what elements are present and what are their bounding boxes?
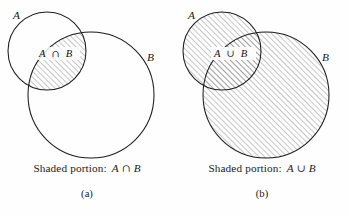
label-set-b: B: [322, 51, 329, 63]
caption-set-b: B: [134, 162, 141, 174]
region-label-suffix: B: [66, 48, 73, 59]
shaded-union-region: [183, 12, 329, 158]
label-set-a: A: [187, 9, 195, 21]
label-set-a: A: [12, 9, 20, 21]
caption-union: Shaded portion:A ∪ B: [175, 162, 349, 174]
caption-expression: A ∩ B: [112, 162, 141, 174]
panel-intersection: A B A ∩ B Shaded portion:A ∩ B (a): [0, 0, 174, 216]
panel-index-b: (b): [175, 188, 349, 199]
caption-set-a: A: [287, 162, 294, 174]
region-label-suffix: B: [241, 48, 248, 59]
region-label-prefix: A: [213, 48, 221, 59]
svg-text:A ∩ B: A ∩ B: [38, 48, 73, 59]
caption-expression: A ∪ B: [287, 162, 316, 174]
venn-figure: A B A ∩ B Shaded portion:A ∩ B (a): [0, 0, 349, 216]
caption-set-a: A: [112, 162, 119, 174]
region-label-operator: ∩: [51, 48, 59, 59]
caption-intersection: Shaded portion:A ∩ B: [0, 162, 174, 174]
region-label-union: A ∪ B: [211, 47, 256, 60]
caption-operator: ∩: [122, 162, 131, 174]
caption-operator: ∪: [297, 162, 306, 174]
panel-index-a: (a): [0, 188, 174, 199]
venn-diagram-intersection: A B A ∩ B: [0, 0, 174, 166]
svg-text:A ∪ B: A ∪ B: [213, 48, 248, 59]
venn-diagram-union: A B A ∪ B: [175, 0, 349, 166]
caption-set-b: B: [309, 162, 316, 174]
panel-union: A B A ∪ B Shaded portion:A ∪ B (b): [175, 0, 349, 216]
caption-prefix: Shaded portion:: [208, 162, 281, 174]
caption-prefix: Shaded portion:: [33, 162, 106, 174]
region-label-operator: ∪: [226, 48, 234, 59]
label-set-b: B: [147, 51, 154, 63]
region-label-prefix: A: [38, 48, 46, 59]
region-label-intersection: A ∩ B: [37, 47, 80, 60]
